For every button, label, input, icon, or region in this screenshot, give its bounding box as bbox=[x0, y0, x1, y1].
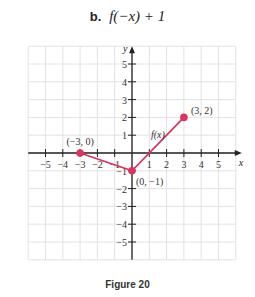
x-tick-label: −3 bbox=[75, 159, 86, 170]
x-tick-label: 3 bbox=[181, 159, 186, 170]
x-tick-label: 4 bbox=[199, 159, 204, 170]
data-point bbox=[76, 149, 84, 157]
y-tick-label: −4 bbox=[116, 219, 127, 230]
y-axis-label: y bbox=[122, 43, 128, 54]
x-tick-label: −4 bbox=[57, 159, 68, 170]
x-axis-label: x bbox=[238, 157, 244, 168]
y-tick-label: −5 bbox=[116, 237, 127, 248]
y-tick-label: 2 bbox=[122, 112, 127, 123]
y-tick-label: 4 bbox=[122, 77, 127, 88]
y-axis-arrow-icon bbox=[129, 46, 135, 53]
y-tick-label: −3 bbox=[116, 201, 127, 212]
y-tick-label: 3 bbox=[122, 95, 127, 106]
plot-area: xy−5−4−3−2−112345−5−4−3−2−112345(−3, 0)(… bbox=[0, 0, 255, 297]
y-tick-label: 1 bbox=[122, 130, 127, 141]
data-point bbox=[180, 114, 188, 122]
x-axis-arrow-icon bbox=[235, 150, 242, 156]
data-point bbox=[128, 167, 136, 175]
point-label: (3, 2) bbox=[191, 105, 213, 117]
figure-caption: Figure 20 bbox=[0, 279, 255, 290]
x-tick-label: 2 bbox=[164, 159, 169, 170]
point-label: (0, −1) bbox=[136, 176, 163, 188]
y-tick-label: 5 bbox=[122, 59, 127, 70]
x-tick-label: 5 bbox=[216, 159, 221, 170]
function-label: f(x) bbox=[151, 129, 166, 141]
y-tick-label: −2 bbox=[116, 184, 127, 195]
x-tick-label: 1 bbox=[147, 159, 152, 170]
x-tick-label: −5 bbox=[40, 159, 51, 170]
point-label: (−3, 0) bbox=[66, 136, 93, 148]
